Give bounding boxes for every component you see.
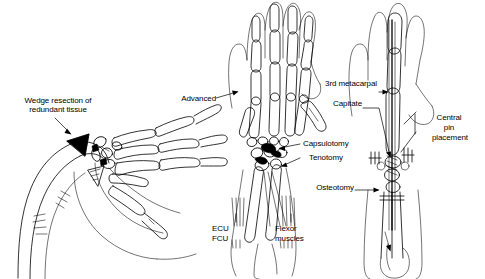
leader-third-metacarpal — [379, 90, 389, 95]
label-osteotomy: Osteotomy — [302, 183, 354, 193]
label-fcu: FCU — [212, 234, 242, 244]
leader-advanced — [216, 91, 239, 99]
leader-capsulotomy — [279, 144, 301, 151]
illustration-canvas — [0, 0, 485, 279]
leader-osteotomy — [355, 188, 380, 193]
leader-central-pin — [401, 112, 416, 152]
panel-left-artwork — [18, 105, 227, 279]
third-metacarpal-bone — [386, 88, 400, 155]
label-flexor-line2: muscles — [275, 234, 323, 244]
leader-wedge-resection — [55, 118, 72, 135]
surgical-illustration-figure — [0, 0, 485, 279]
label-wedge-resection-line2: redundant tissue — [8, 105, 108, 115]
label-flexor-line1: Flexor — [275, 224, 323, 234]
middle-panel-finger-bones — [251, 4, 326, 131]
label-central-pin-line2: pin — [420, 123, 478, 133]
leader-tenotomy — [281, 158, 301, 167]
label-advanced: Advanced — [176, 94, 216, 104]
label-third-metacarpal: 3rd metacarpal — [309, 79, 377, 89]
label-capsulotomy: Capsulotomy — [303, 139, 373, 149]
label-central-pin-line1: Central — [420, 113, 478, 123]
label-capitate: Capitate — [318, 99, 362, 109]
label-tenotomy: Tenotomy — [309, 153, 369, 163]
middle-panel-metacarpals — [239, 93, 308, 138]
label-ecu: ECU — [212, 224, 242, 234]
label-central-pin-line3: placement — [418, 133, 482, 143]
